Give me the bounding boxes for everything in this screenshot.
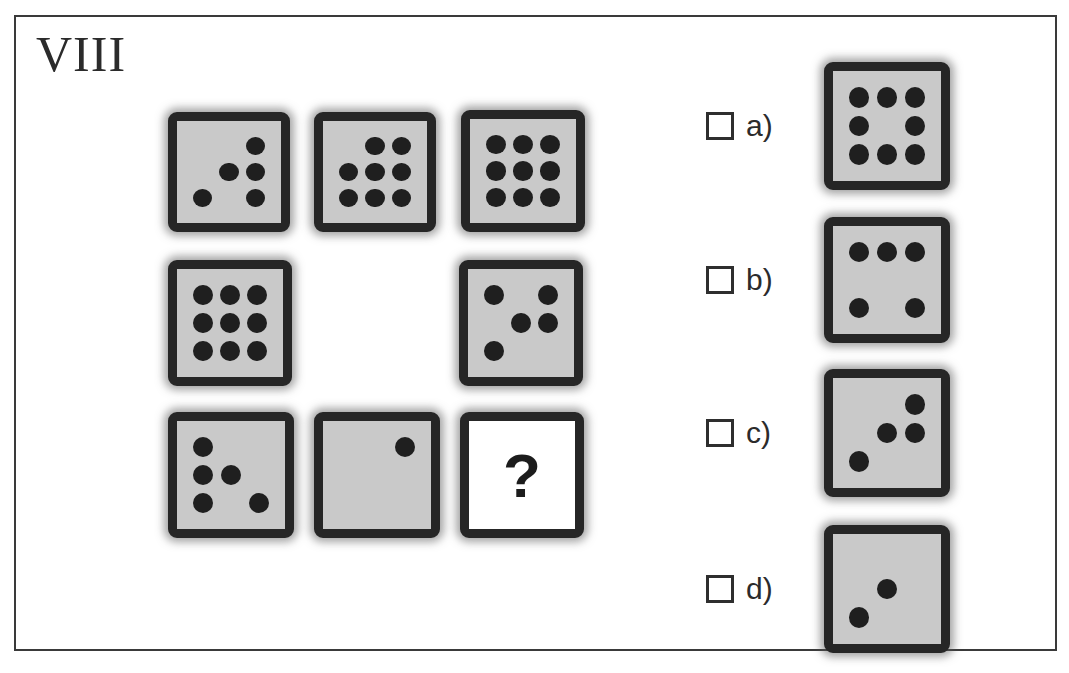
matrix-cell-r2c1-face bbox=[168, 260, 292, 386]
option-b-die[interactable] bbox=[824, 217, 950, 343]
option-b-pip-slot-bottom-center bbox=[873, 294, 901, 322]
matrix-cell-r1c3-pip-slot-bottom-right bbox=[537, 184, 564, 211]
matrix-cell-r1c3-pip-slot-middle-right bbox=[537, 158, 564, 185]
matrix-cell-r1c3-pip-slot-middle-left bbox=[482, 158, 509, 185]
option-b-pip-empty-bottom-center bbox=[877, 298, 897, 318]
option-a-pip-grid bbox=[842, 80, 932, 172]
matrix-cell-r2c1-pip-slot-top-right bbox=[244, 281, 271, 309]
option-a-pip-top-center bbox=[877, 87, 897, 108]
matrix-cell-r1c1-pip-slot-top-right bbox=[242, 133, 269, 159]
matrix-cell-r1c1 bbox=[168, 112, 290, 232]
matrix-cell-r1c2-pip-slot-middle-center bbox=[362, 159, 389, 185]
matrix-cell-r3c2-face bbox=[314, 412, 440, 538]
matrix-cell-r3c1-pip-slot-bottom-left bbox=[189, 489, 217, 517]
matrix-cell-r1c3-pip-bottom-right bbox=[540, 188, 560, 207]
matrix-cell-r3c1-pip-slot-middle-center bbox=[217, 461, 245, 489]
matrix-cell-r2c1-pip-top-center bbox=[220, 285, 240, 305]
option-d-pip-empty-middle-left bbox=[849, 579, 869, 600]
matrix-cell-r1c2-pip-middle-right bbox=[392, 163, 411, 182]
matrix-cell-r1c1-pip-slot-top-left bbox=[189, 133, 216, 159]
option-c-checkbox[interactable] bbox=[706, 419, 734, 447]
matrix-cell-r3c1-pip-slot-middle-left bbox=[189, 461, 217, 489]
matrix-cell-r1c3-pip-slot-bottom-left bbox=[482, 184, 509, 211]
matrix-cell-r3c1-face bbox=[168, 412, 294, 538]
option-c-pip-empty-bottom-center bbox=[877, 451, 897, 472]
option-d-checkbox[interactable] bbox=[706, 575, 734, 603]
matrix-cell-r2c3-pip-bottom-left bbox=[484, 341, 504, 361]
matrix-cell-r1c2-pip-slot-bottom-left bbox=[335, 185, 362, 211]
matrix-cell-r3c1-pip-slot-top-right bbox=[245, 433, 273, 461]
option-b-row[interactable]: b) bbox=[706, 217, 956, 294]
matrix-cell-r2c3-pip-top-right bbox=[538, 285, 558, 305]
matrix-cell-r3c1-pip-slot-bottom-center bbox=[217, 489, 245, 517]
option-c-pip-empty-top-center bbox=[877, 394, 897, 415]
option-b-pick[interactable]: b) bbox=[706, 266, 814, 294]
matrix-cell-r1c2 bbox=[314, 112, 436, 232]
option-a-row[interactable]: a) bbox=[706, 62, 956, 140]
option-b-label: b) bbox=[746, 266, 773, 294]
option-c-pick[interactable]: c) bbox=[706, 419, 814, 447]
matrix-cell-r2c1-pip-slot-bottom-center bbox=[216, 337, 243, 365]
matrix-cell-r1c2-pip-grid bbox=[332, 130, 418, 214]
option-d-pip-middle-center bbox=[877, 579, 897, 600]
option-d-row[interactable]: d) bbox=[706, 525, 956, 603]
matrix-cell-r3c2-pip-slot-middle-left bbox=[335, 461, 363, 489]
option-a-checkbox[interactable] bbox=[706, 112, 734, 140]
matrix-cell-r1c2-pip-slot-bottom-right bbox=[388, 185, 415, 211]
option-d-pip-slot-bottom-left bbox=[845, 603, 873, 632]
option-c-pip-empty-top-left bbox=[849, 394, 869, 415]
matrix-cell-r2c3-pip-slot-bottom-left bbox=[480, 337, 507, 365]
matrix-cell-r1c3-pip-slot-top-left bbox=[482, 131, 509, 158]
option-a-pip-bottom-right bbox=[905, 144, 925, 165]
option-c-pip-top-right bbox=[905, 394, 925, 415]
matrix-cell-r2c1-pip-grid bbox=[186, 278, 274, 368]
option-d-pick[interactable]: d) bbox=[706, 575, 814, 603]
matrix-cell-r1c3-pip-slot-top-center bbox=[509, 131, 536, 158]
matrix-cell-r2c3-pip-middle-right bbox=[538, 313, 558, 333]
option-c-die-face bbox=[824, 369, 950, 497]
option-c-die[interactable] bbox=[824, 369, 950, 497]
option-b-pip-bottom-right bbox=[905, 298, 925, 318]
matrix-cell-r1c3-pip-bottom-center bbox=[513, 188, 533, 207]
option-d-die[interactable] bbox=[824, 525, 950, 653]
matrix-cell-r2c3-pip-slot-middle-left bbox=[480, 309, 507, 337]
matrix-cell-r1c1-pip-top-right bbox=[246, 137, 265, 156]
option-a-die[interactable] bbox=[824, 62, 950, 190]
option-c-pip-slot-bottom-right bbox=[901, 447, 929, 476]
option-b-pip-top-left bbox=[849, 242, 869, 262]
option-a-pip-bottom-center bbox=[877, 144, 897, 165]
option-a-pip-slot-bottom-right bbox=[901, 140, 929, 169]
matrix-cell-r1c3-pip-slot-middle-center bbox=[509, 158, 536, 185]
matrix-cell-r2c3-pip-slot-bottom-center bbox=[507, 337, 534, 365]
matrix-cell-r2c3-pip-slot-top-left bbox=[480, 281, 507, 309]
option-b-pip-slot-middle-left bbox=[845, 266, 873, 294]
option-c-pip-slot-top-left bbox=[845, 390, 873, 419]
option-c-pip-slot-top-right bbox=[901, 390, 929, 419]
matrix-cell-r1c1-pip-slot-middle-center bbox=[216, 159, 243, 185]
answer-options-list: a)b)c)d) bbox=[706, 47, 956, 667]
matrix-cell-r3c1-pip-middle-center bbox=[221, 465, 241, 485]
matrix-cell-r3c1-pip-slot-top-center bbox=[217, 433, 245, 461]
matrix-cell-r2c3-pip-empty-bottom-center bbox=[511, 341, 531, 361]
option-a-pip-slot-top-left bbox=[845, 83, 873, 112]
option-c-pip-empty-bottom-right bbox=[905, 451, 925, 472]
matrix-cell-r1c1-pip-slot-bottom-left bbox=[189, 185, 216, 211]
option-c-pip-slot-top-center bbox=[873, 390, 901, 419]
matrix-cell-r1c2-pip-top-center bbox=[365, 137, 384, 156]
option-d-pip-slot-middle-left bbox=[845, 575, 873, 604]
option-c-row[interactable]: c) bbox=[706, 369, 956, 447]
matrix-cell-r3c2 bbox=[314, 412, 440, 538]
option-d-pip-empty-bottom-right bbox=[905, 607, 925, 628]
option-a-pick[interactable]: a) bbox=[706, 112, 814, 140]
matrix-cell-r3c2-pip-slot-top-center bbox=[363, 433, 391, 461]
option-c-pip-slot-middle-right bbox=[901, 419, 929, 448]
matrix-cell-r3c2-pip-grid bbox=[332, 430, 422, 520]
option-b-checkbox[interactable] bbox=[706, 266, 734, 294]
matrix-cell-r1c3-pip-top-left bbox=[486, 135, 506, 154]
option-b-pip-slot-middle-center bbox=[873, 266, 901, 294]
option-d-pip-slot-top-right bbox=[901, 546, 929, 575]
matrix-cell-r1c2-pip-slot-top-left bbox=[335, 133, 362, 159]
matrix-cell-r3c2-pip-slot-bottom-center bbox=[363, 489, 391, 517]
option-a-pip-slot-bottom-left bbox=[845, 140, 873, 169]
matrix-cell-r1c3-pip-middle-left bbox=[486, 161, 506, 180]
